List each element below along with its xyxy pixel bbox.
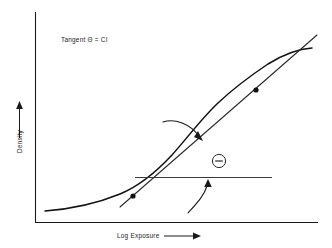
y-axis-arrow-head xyxy=(16,101,23,109)
figure-root: Tangent Θ = CI Log Exposure Density xyxy=(0,0,332,248)
minus-sign-annotation-group xyxy=(212,154,225,167)
tangent-line-path xyxy=(120,35,317,207)
upper-tangency-point-dot xyxy=(253,87,258,92)
characteristic-curve-svg xyxy=(0,0,332,248)
pointer-to-tangent-group xyxy=(163,121,203,141)
tangency-markers-group xyxy=(130,87,258,198)
pointer-to-reference-line-arrowhead xyxy=(204,179,212,187)
axes-group xyxy=(35,12,318,223)
tangent-annotation-label: Tangent Θ = CI xyxy=(61,36,108,43)
pointer-to-reference-line-group xyxy=(188,179,212,213)
x-axis-label: Log Exposure xyxy=(117,232,159,239)
pointer-to-tangent-curve xyxy=(163,121,199,136)
y-axis-label: Density xyxy=(16,114,23,170)
x-axis-direction-arrow-group xyxy=(164,233,201,240)
tangent-line-group xyxy=(120,35,317,207)
characteristic-curve-group xyxy=(45,48,312,211)
characteristic-curve-path xyxy=(45,48,312,211)
lower-tangency-point-dot xyxy=(130,193,135,198)
pointer-to-reference-line-curve xyxy=(188,186,207,213)
x-axis-arrow-head xyxy=(193,233,201,240)
